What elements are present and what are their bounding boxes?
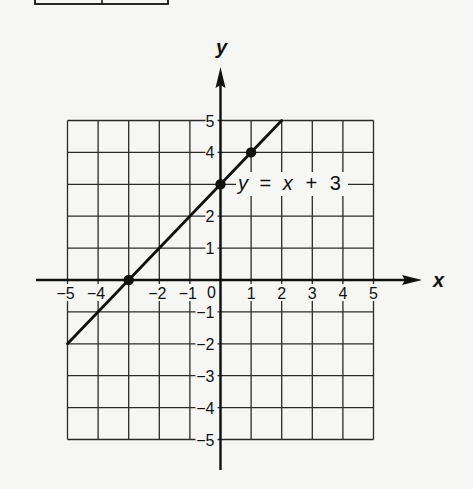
equation-plus: + xyxy=(305,172,317,194)
y-tick-label: 5 xyxy=(206,113,215,130)
x-tick-label: −4 xyxy=(87,285,105,302)
x-tick-label: −2 xyxy=(148,285,166,302)
y-tick-label: 1 xyxy=(206,240,215,257)
x-tick-label: 1 xyxy=(247,285,256,302)
y-axis-arrow-icon xyxy=(216,67,226,88)
x-tick-label: −5 xyxy=(56,285,74,302)
y-tick-label: −2 xyxy=(196,336,214,353)
y-tick-label: −4 xyxy=(196,400,214,417)
x-tick-label: 3 xyxy=(308,285,317,302)
axes xyxy=(36,67,422,470)
x-axis-arrow-icon xyxy=(402,275,422,285)
y-tick-label: 2 xyxy=(206,208,215,225)
x-axis-label: x xyxy=(432,269,445,291)
x-tick-label: 5 xyxy=(369,285,378,302)
data-point xyxy=(246,147,256,157)
equation-constant: 3 xyxy=(330,172,341,194)
y-tick-label: −5 xyxy=(196,432,214,449)
y-tick-label: −1 xyxy=(196,304,214,321)
equation-x: x xyxy=(282,172,294,194)
equation-label: y = x + 3 xyxy=(236,172,348,196)
origin-label: 0 xyxy=(207,284,216,301)
y-tick-label: −3 xyxy=(196,368,214,385)
x-tick-label: 4 xyxy=(338,285,347,302)
equation-y: y xyxy=(236,172,249,194)
partial-table-box xyxy=(35,0,168,4)
y-axis-label: y xyxy=(215,36,228,58)
data-point xyxy=(124,275,134,285)
data-point xyxy=(215,179,225,189)
equation-equals: = xyxy=(260,172,272,194)
x-tick-label: −1 xyxy=(179,285,197,302)
x-tick-label: 2 xyxy=(277,285,286,302)
y-tick-label: 4 xyxy=(206,144,215,161)
coordinate-plane: −5−4−2−11234505421−1−2−3−4−5 y = x + 3 y… xyxy=(0,0,473,489)
